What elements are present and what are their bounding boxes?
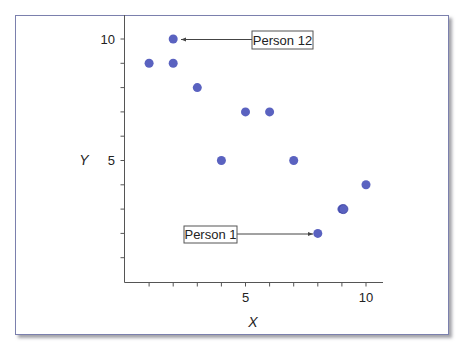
x-axis-ticks [149, 283, 366, 287]
data-point [217, 156, 226, 165]
data-point [265, 107, 274, 116]
y-tick-label-10: 10 [101, 32, 115, 47]
data-point [339, 205, 348, 214]
axes [121, 15, 384, 287]
scatter-plot: 5 10 10 5 X Y Person 12 Person 1 [0, 0, 462, 349]
data-point [289, 156, 298, 165]
data-point [193, 83, 202, 92]
x-tick-label-10: 10 [359, 290, 373, 305]
callout-person1: Person 1 [184, 226, 237, 243]
data-point [145, 59, 154, 68]
callout-label-person12: Person 12 [253, 33, 312, 48]
callout-label-person1: Person 1 [184, 227, 236, 242]
x-tick-label-5: 5 [242, 290, 249, 305]
data-point [169, 35, 178, 44]
x-axis-title: X [247, 314, 258, 330]
data-point [241, 107, 250, 116]
callout-person12: Person 12 [252, 31, 313, 49]
data-point [169, 59, 178, 68]
y-axis-title: Y [79, 152, 90, 168]
data-point [313, 229, 322, 238]
y-axis-ticks [121, 39, 125, 258]
y-tick-label-5: 5 [108, 153, 115, 168]
data-points [145, 35, 371, 238]
data-point [362, 180, 371, 189]
